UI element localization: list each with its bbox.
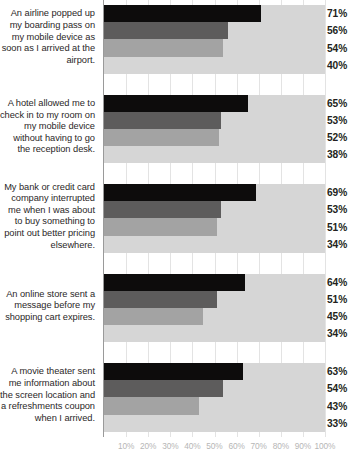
category-label: My bank or credit card company interrupt… (0, 182, 95, 251)
category-label: An online store sent a message before my… (0, 272, 95, 341)
bar (104, 274, 245, 291)
bar (104, 22, 228, 39)
bar (104, 218, 217, 235)
value-label: 69% (327, 187, 352, 198)
value-label: 56% (327, 25, 352, 36)
bar-group (104, 274, 325, 343)
value-label: 63% (327, 366, 352, 377)
value-label: 51% (327, 222, 352, 233)
bar (104, 201, 221, 218)
value-label: 34% (327, 239, 352, 250)
bar (104, 236, 179, 253)
bar (104, 325, 179, 342)
value-label: 38% (327, 149, 352, 160)
value-label: 52% (327, 132, 352, 143)
value-label: 33% (327, 418, 352, 429)
bar (104, 112, 221, 129)
gridline (325, 0, 326, 437)
value-label: 53% (327, 115, 352, 126)
category-label-column: An airline popped up my boarding pass on… (0, 0, 99, 437)
bar-group (104, 363, 325, 432)
bar (104, 380, 223, 397)
x-axis-tick-labels: 10%20%30%40%50%60%70%80%90%100% (104, 441, 325, 457)
bar (104, 39, 223, 56)
bar (104, 146, 188, 163)
bar (104, 95, 248, 112)
value-label: 54% (327, 43, 352, 54)
horizontal-bar-chart: An airline popped up my boarding pass on… (0, 0, 352, 465)
value-label: 71% (327, 8, 352, 19)
bar (104, 57, 192, 74)
plot-area (104, 0, 325, 437)
value-label: 34% (327, 328, 352, 339)
value-label-column: 71%56%54%40%65%53%52%38%69%53%51%34%64%5… (327, 0, 352, 437)
bar (104, 184, 256, 201)
value-label: 54% (327, 383, 352, 394)
category-label: A hotel allowed me to check in to my roo… (0, 93, 95, 162)
value-label: 53% (327, 204, 352, 215)
bar (104, 308, 203, 325)
value-label: 65% (327, 98, 352, 109)
bar (104, 415, 177, 432)
bar (104, 129, 219, 146)
value-label: 51% (327, 294, 352, 305)
x-tick-label: 100% (310, 441, 340, 451)
bar (104, 291, 217, 308)
bar (104, 5, 261, 22)
value-label: 45% (327, 311, 352, 322)
bar-group (104, 184, 325, 253)
bar (104, 397, 199, 414)
bar-group (104, 5, 325, 74)
value-label: 40% (327, 60, 352, 71)
bar-group (104, 95, 325, 164)
category-label: An airline popped up my boarding pass on… (0, 3, 95, 72)
bar (104, 363, 243, 380)
value-label: 64% (327, 277, 352, 288)
value-label: 43% (327, 401, 352, 412)
category-label: A movie theater sent me information abou… (0, 361, 95, 430)
